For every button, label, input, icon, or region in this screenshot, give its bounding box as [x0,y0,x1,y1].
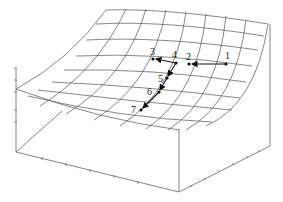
point-label-7: 7 [131,104,136,115]
point-label-3: 3 [150,46,155,57]
point-label-6: 6 [147,86,152,97]
point-label-2: 2 [186,51,191,62]
point-label-5: 5 [158,73,163,84]
surface-plot: 1 2 3 4 5 6 7 [0,0,283,202]
axis-ticks [14,68,260,187]
point-label-1: 1 [225,50,230,61]
point-label-4: 4 [172,49,177,60]
surface-diagram: 1 2 3 4 5 6 7 [0,0,283,202]
path-points [139,57,227,111]
optimization-path [143,59,226,108]
surface-mesh [16,9,268,130]
